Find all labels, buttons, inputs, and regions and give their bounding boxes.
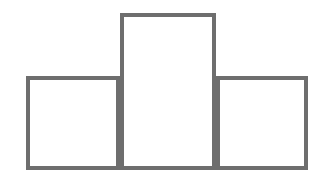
bar-middle (122, 15, 214, 168)
histogram-figure (0, 0, 328, 185)
bar-left (28, 78, 118, 168)
bar-right (218, 78, 306, 168)
histogram-chart (0, 0, 328, 185)
